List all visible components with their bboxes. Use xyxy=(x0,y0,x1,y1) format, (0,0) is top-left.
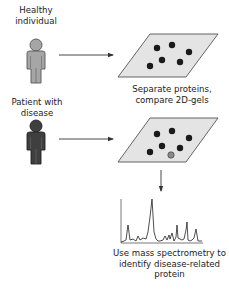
mass-spectrum-chart xyxy=(121,199,203,243)
patient-person-icon xyxy=(27,120,45,164)
disease-spot xyxy=(168,152,174,158)
healthy-gel xyxy=(118,34,218,77)
healthy-person-icon xyxy=(27,39,45,83)
patient-gel xyxy=(118,118,218,162)
